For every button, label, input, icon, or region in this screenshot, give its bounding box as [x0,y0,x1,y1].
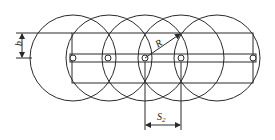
coverage-diagram: b R S2 [0,0,275,140]
coverage-circle-5 [174,15,260,101]
label-S2-sub: 2 [162,116,166,124]
label-S2: S2 [157,111,166,124]
hole-1 [70,55,76,61]
coverage-strip [72,33,253,83]
center-bar [70,54,256,62]
hole-5 [250,55,256,61]
hole-2 [105,55,111,61]
hole-4 [178,55,184,61]
label-b: b [13,41,24,46]
label-R: R [152,37,164,50]
diagram-svg: b R S2 [0,0,275,140]
